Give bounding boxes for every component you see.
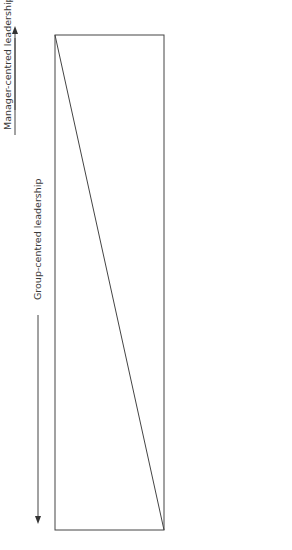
diagram-lines <box>0 0 292 550</box>
left-arrow-label: Group-centred leadership <box>32 179 43 300</box>
rotated-figure: Manager-centred leadership Group-centred… <box>0 0 292 550</box>
right-arrow-label: Manager-centred leadership <box>2 0 13 130</box>
